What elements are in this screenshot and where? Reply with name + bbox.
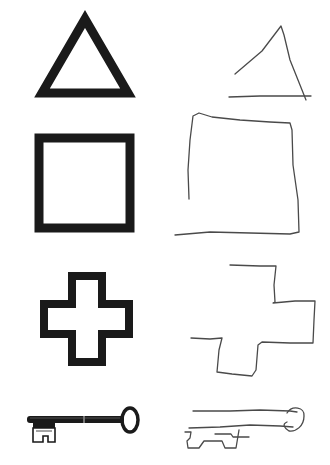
drawn-triangle (229, 26, 311, 100)
drawn-cross (191, 265, 315, 376)
reference-triangle (42, 19, 128, 93)
reference-square (39, 138, 130, 228)
drawn-square (175, 113, 299, 235)
drawn-key (185, 408, 304, 448)
shape-copy-figure (0, 0, 330, 465)
reference-cross (44, 276, 129, 362)
reference-key (27, 408, 138, 442)
